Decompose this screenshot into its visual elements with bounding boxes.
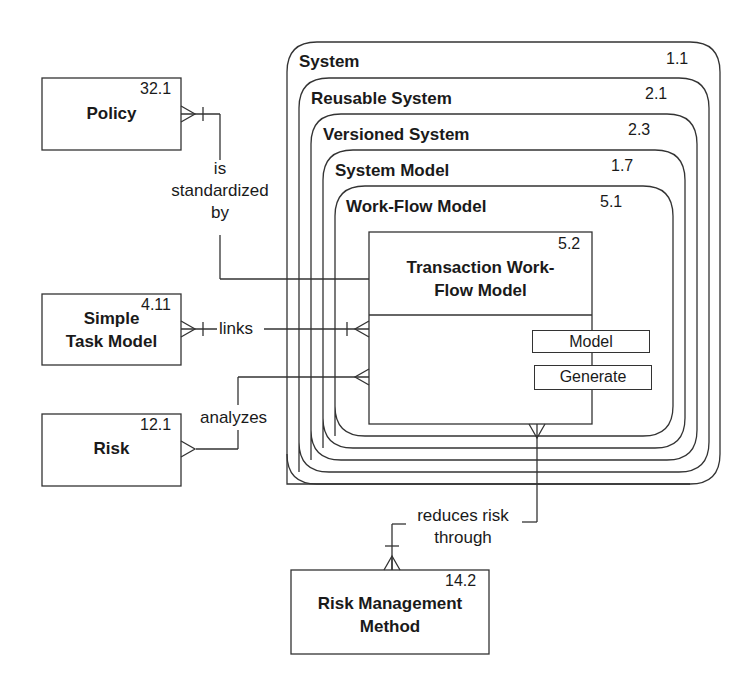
- system-model-id: 1.7: [611, 157, 633, 175]
- reusable-system-id: 2.1: [645, 85, 667, 103]
- policy-title: Policy: [42, 102, 181, 125]
- system-id: 1.1: [666, 50, 688, 68]
- transaction-title: Transaction Work- Flow Model: [369, 256, 592, 302]
- policy-id: 32.1: [140, 80, 171, 98]
- transaction-id: 5.2: [558, 235, 580, 253]
- simple-task-model-title: Simple Task Model: [42, 307, 181, 353]
- system-title: System: [299, 52, 359, 72]
- system-model-title: System Model: [335, 161, 449, 181]
- work-flow-model-id: 5.1: [600, 193, 622, 211]
- risk-management-method-id: 14.2: [445, 572, 476, 590]
- reusable-system-title: Reusable System: [311, 89, 452, 109]
- versioned-system-title: Versioned System: [323, 125, 469, 145]
- standardized-label: is standardized by: [160, 158, 280, 224]
- reduces-risk-label: reduces risk through: [398, 505, 528, 549]
- work-flow-model-title: Work-Flow Model: [346, 197, 486, 217]
- versioned-system-id: 2.3: [628, 121, 650, 139]
- generate-operation[interactable]: Generate: [534, 365, 652, 390]
- risk-management-method-title: Risk Management Method: [291, 592, 489, 638]
- risk-id: 12.1: [140, 416, 171, 434]
- links-label: links: [219, 318, 253, 340]
- model-operation[interactable]: Model: [532, 330, 650, 353]
- risk-title: Risk: [42, 437, 181, 460]
- analyzes-label: analyzes: [200, 407, 267, 429]
